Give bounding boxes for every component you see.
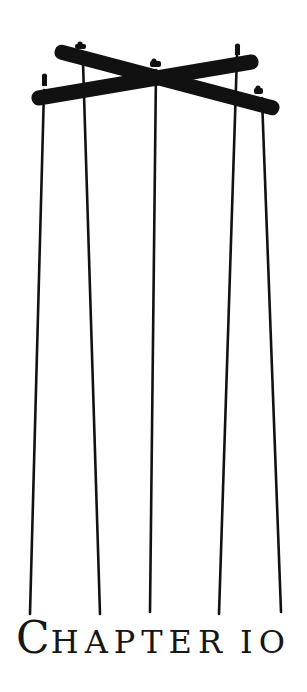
peg-4 [235,43,240,55]
chapter-number: IO [240,623,291,661]
peg-2 [75,41,86,49]
chapter-heading: CHAPTERIO [0,612,307,663]
peg-1 [42,73,47,86]
string-3 [150,70,156,612]
string-2 [83,62,100,614]
string-4 [219,55,237,614]
chapter-word-rest: HAPTER [51,623,228,661]
peg-3 [150,58,161,67]
string-5 [262,98,281,612]
marionette-cross-illustration [0,0,307,692]
string-1 [30,90,44,614]
peg-5 [254,85,263,94]
chapter-initial: C [16,612,51,663]
marionette-strings [30,55,281,614]
